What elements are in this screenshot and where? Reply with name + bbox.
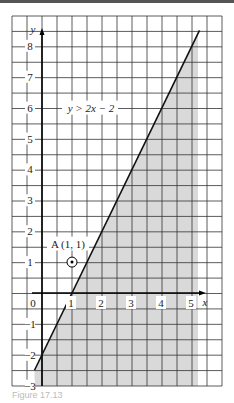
x-axis-label: x — [202, 296, 208, 308]
inequality-graph: −3−2−112345678012345yxy > 2x − 2A (1, 1) — [0, 0, 234, 403]
y-tick-label-7: 7 — [27, 71, 33, 83]
shaded-region — [35, 33, 199, 386]
figure-caption: Figure 17.13 — [12, 390, 63, 400]
y-tick-label-3: 3 — [27, 194, 33, 206]
x-tick-label-4: 4 — [158, 297, 164, 309]
x-tick-label-0: 0 — [30, 297, 36, 309]
y-tick-label--2: −2 — [24, 349, 36, 361]
x-tick-label-2: 2 — [98, 297, 104, 309]
y-tick-label-6: 6 — [27, 102, 33, 114]
y-tick-label-2: 2 — [27, 225, 33, 237]
point-a-dot-icon — [71, 261, 74, 264]
y-axis-label: y — [30, 23, 36, 35]
y-tick-label-8: 8 — [27, 40, 33, 52]
y-tick-label-4: 4 — [27, 163, 33, 175]
point-a-label: A (1, 1) — [51, 238, 85, 251]
y-tick-label-1: 1 — [27, 256, 33, 268]
x-axis-arrow-icon — [199, 291, 206, 296]
y-tick-label-5: 5 — [27, 133, 33, 145]
y-tick-label--1: −1 — [24, 318, 36, 330]
x-tick-label-5: 5 — [188, 297, 194, 309]
x-tick-label-3: 3 — [128, 297, 134, 309]
x-tick-label-1: 1 — [68, 297, 74, 309]
inequality-label: y > 2x − 2 — [67, 102, 115, 114]
